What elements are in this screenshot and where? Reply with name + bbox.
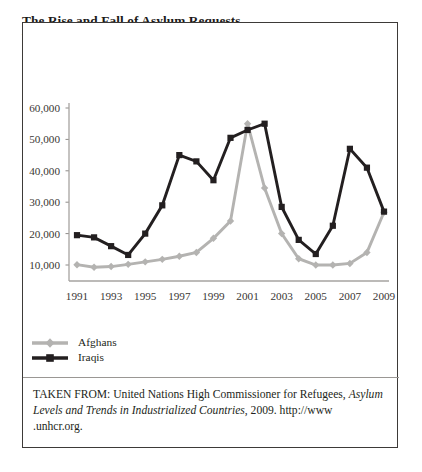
series-line <box>77 124 384 268</box>
data-point-marker <box>312 261 319 268</box>
asylum-requests-line-chart: 10,00020,00030,00040,00050,00060,000 199… <box>23 23 399 449</box>
data-point-marker <box>108 243 114 249</box>
source-divider <box>23 377 399 378</box>
data-point-marker <box>261 184 268 191</box>
y-tick-label: 20,000 <box>29 228 60 240</box>
legend-item-iraqis: Iraqis <box>31 350 117 365</box>
data-point-marker <box>73 261 80 268</box>
x-tick-label: 2007 <box>339 290 362 302</box>
x-axis-tick-labels: 1991199319951997199920012003200520072009 <box>66 290 396 302</box>
data-point-marker <box>176 253 183 260</box>
legend-label-afghans: Afghans <box>78 335 117 350</box>
data-point-marker <box>244 120 251 127</box>
data-point-marker <box>176 152 182 158</box>
x-tick-label: 1995 <box>134 290 157 302</box>
legend-swatch-iraqis <box>31 352 69 364</box>
y-tick-label: 60,000 <box>29 102 60 114</box>
x-tick-label: 2005 <box>305 290 328 302</box>
data-point-marker <box>296 237 302 243</box>
data-point-marker <box>90 264 97 271</box>
data-point-marker <box>125 252 131 258</box>
x-tick-label: 2009 <box>373 290 396 302</box>
legend-item-afghans: Afghans <box>31 335 117 350</box>
series-line <box>77 124 384 255</box>
source-url-tail: .unhcr.org. <box>33 420 83 433</box>
x-tick-label: 2003 <box>270 290 293 302</box>
figure-frame: 10,00020,00030,00040,00050,00060,000 199… <box>22 22 398 448</box>
data-point-marker <box>381 209 387 215</box>
x-tick-label: 1999 <box>202 290 225 302</box>
data-point-marker <box>262 121 268 127</box>
x-tick-label: 1993 <box>100 290 123 302</box>
data-point-marker <box>159 256 166 263</box>
y-tick-label: 10,000 <box>29 259 60 271</box>
data-point-marker <box>329 261 336 268</box>
data-point-marker <box>107 263 114 270</box>
data-point-marker <box>193 158 199 164</box>
data-point-marker <box>159 202 165 208</box>
data-point-marker <box>244 127 250 133</box>
data-point-marker <box>313 251 319 257</box>
chart-legend: Afghans Iraqis <box>31 335 117 365</box>
data-point-marker <box>142 231 148 237</box>
data-point-marker <box>74 232 80 238</box>
data-point-marker <box>279 204 285 210</box>
x-tick-label: 2001 <box>236 290 258 302</box>
data-point-marker <box>142 258 149 265</box>
x-tick-label: 1997 <box>168 290 191 302</box>
data-point-marker <box>91 234 97 240</box>
data-point-marker <box>347 146 353 152</box>
chart-series-group <box>73 120 387 271</box>
y-tick-label: 40,000 <box>29 165 60 177</box>
data-point-marker <box>210 177 216 183</box>
source-prefix: TAKEN FROM: United Nations High Commissi… <box>33 388 346 401</box>
data-point-marker <box>227 135 233 141</box>
source-suffix: , 2009. http://www <box>245 404 333 417</box>
x-tick-label: 1991 <box>66 290 88 302</box>
y-tick-label: 30,000 <box>29 196 60 208</box>
source-attribution: TAKEN FROM: United Nations High Commissi… <box>33 387 389 436</box>
y-axis-tick-labels: 10,00020,00030,00040,00050,00060,000 <box>29 102 60 271</box>
legend-label-iraqis: Iraqis <box>78 350 104 365</box>
data-point-marker <box>330 223 336 229</box>
y-tick-label: 50,000 <box>29 133 60 145</box>
series-iraqis <box>74 121 387 258</box>
chart-plot-area: 10,00020,00030,00040,00050,00060,000 199… <box>23 23 399 449</box>
data-point-marker <box>364 165 370 171</box>
legend-swatch-afghans <box>31 337 69 349</box>
data-point-marker <box>124 261 131 268</box>
